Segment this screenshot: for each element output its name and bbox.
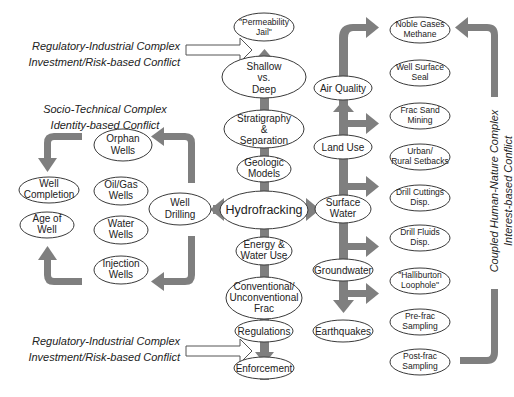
node-shallow-vs-deep[interactable]: Shallow vs. Deep [222,56,306,98]
node-noble-gases-methane[interactable]: Noble Gases Methane [390,17,450,43]
node-hydrofracking[interactable]: Hydrofracking [220,191,308,229]
node-land-use[interactable]: Land Use [314,135,372,159]
node-urban-rural-setbacks[interactable]: Urban/ Rural Setbacks [390,144,450,170]
node-text: Disp. [410,197,429,207]
node-stratigraphy[interactable]: Stratigraphy & Separation [224,110,304,148]
node-text: Water [330,208,357,219]
node-groundwater[interactable]: Groundwater [313,259,373,281]
node-text: Mining [407,115,432,125]
node-conventional-frac[interactable]: Conventional/ Unconventional Frac [226,277,302,319]
node-text: Sampling [402,321,438,331]
node-text: Well Surface [396,62,444,72]
arrow-left-icon [151,127,164,146]
node-text: "Permeability [239,17,290,27]
node-text: Methane [403,29,436,39]
cycle-arrow-bottom-right [162,236,195,285]
cycle-arrow-top-left [44,133,82,160]
connector [339,24,368,38]
node-text: Sampling [402,361,438,371]
node-text: Wells [111,145,135,156]
node-drill-cuttings-disp[interactable]: Drill Cuttings Disp. [390,185,450,211]
node-text: vs. [258,72,271,83]
node-surface-water[interactable]: Surface Water [315,195,371,223]
node-frac-sand-mining[interactable]: Frac Sand Mining [390,103,450,129]
node-text: Hydrofracking [225,203,302,217]
node-drill-fluids-disp[interactable]: Drill Fluids Disp. [390,225,450,251]
node-permeability-jail[interactable]: "Permeability Jail" [234,13,294,41]
node-text: Energy & [243,239,284,250]
node-text: Oil/Gas [104,179,137,190]
node-text: Separation [240,135,288,146]
node-text: Well [170,197,189,208]
node-text: Shallow [246,61,282,72]
node-text: Drill Fluids [400,227,440,237]
node-post-frac-sampling[interactable]: Post-frac Sampling [390,349,450,375]
node-geologic-models[interactable]: Geologic Models [237,156,291,182]
bracket-arrow-top [466,24,498,97]
node-text: Deep [252,84,276,95]
node-text: Drill Cuttings [396,187,444,197]
node-text: & [261,124,268,135]
node-text: Post-frac [403,351,438,361]
node-text: "Halliburton [398,270,442,280]
node-text: Rural Setbacks [391,156,449,166]
node-injection-wells[interactable]: Injection Wells [94,256,148,284]
arrow-right-icon [366,17,379,38]
node-text: Stratigraphy [237,113,291,124]
node-text: Injection [102,258,139,269]
node-text: Wells [109,229,133,240]
node-text: Loophole" [401,280,439,290]
node-text: Noble Gases [395,19,444,29]
node-text: Models [248,168,280,179]
node-text: Pre-frac [405,311,436,321]
arrow-down-icon [38,158,57,172]
node-energy-water-use[interactable]: Energy & Water Use [236,237,292,265]
node-text: Seal [411,72,428,82]
node-regulations[interactable]: Regulations [235,320,293,342]
node-halliburton-loophole[interactable]: "Halliburton Loophole" [390,268,450,294]
node-text: Enforcement [236,363,293,374]
node-well-surface-seal[interactable]: Well Surface Seal [390,60,450,86]
node-text: Earthquakes [315,326,371,337]
node-age-of-well[interactable]: Age of Well [20,212,74,238]
node-text: Jail" [256,27,272,37]
node-text: Water Use [241,250,288,261]
node-air-quality[interactable]: Air Quality [314,76,372,100]
node-enforcement[interactable]: Enforcement [234,357,294,379]
node-well-drilling[interactable]: Well Drilling [149,193,211,225]
node-text: Wells [109,269,133,280]
node-text: Well [37,224,56,235]
node-well-completion[interactable]: Well Completion [19,177,79,203]
node-text: Geologic [244,157,283,168]
hollow-arrow-bottom [186,339,252,363]
hydrofracking-diagram: "Permeability Jail" Shallow vs. Deep Str… [0,0,514,397]
node-text: Orphan [106,133,139,144]
bracket-arrow-bottom [460,289,498,364]
arrow-left-icon [455,17,468,38]
arrow-left-icon [151,272,164,291]
node-pre-frac-sampling[interactable]: Pre-frac Sampling [390,309,450,335]
node-text: Land Use [322,142,365,153]
node-text: Regulations [238,326,291,337]
node-text: Completion [24,189,75,200]
node-text: Air Quality [320,83,366,94]
node-text: Disp. [410,237,429,247]
arrow-up-icon [38,246,57,260]
node-orphan-wells[interactable]: Orphan Wells [94,129,152,161]
node-text: Drilling [165,209,196,220]
arrow-down-icon [333,300,354,313]
node-text: Conventional/ [233,281,294,292]
node-text: Frac Sand [400,105,439,115]
node-text: Groundwater [314,265,372,276]
node-water-wells[interactable]: Water Wells [94,216,148,244]
cycle-arrow-top-right [162,133,195,183]
hollow-arrow-top [186,38,252,62]
node-text: Water [108,218,135,229]
node-oil-gas-wells[interactable]: Oil/Gas Wells [94,177,148,205]
arrow-up-icon [333,100,354,112]
cycle-arrow-bottom-left [44,258,82,285]
node-text: Frac [254,303,274,314]
node-earthquakes[interactable]: Earthquakes [313,320,373,342]
node-text: Unconventional [230,292,299,303]
node-text: Wells [109,190,133,201]
